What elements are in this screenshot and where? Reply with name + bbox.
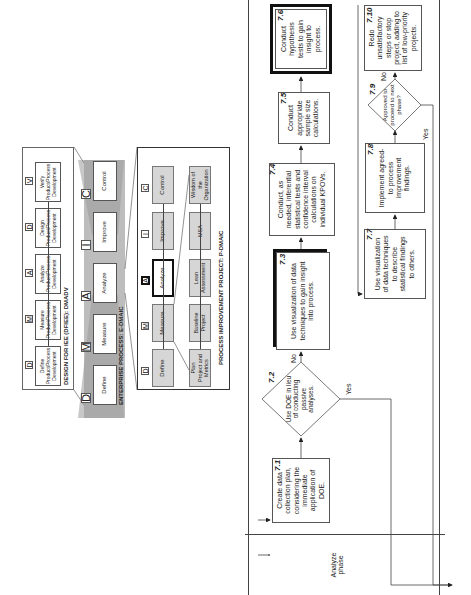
step-7-4-number: 7.4	[268, 164, 277, 175]
step-7-10-text: Redo unsatisfactory steps or stop projec…	[368, 10, 418, 66]
step-7-2-yes-label: Yes	[345, 384, 352, 395]
step-7-8-text: Implement agreed-to process improvement …	[378, 148, 412, 208]
step-7-9-number: 7.9	[368, 84, 377, 95]
step-7-2-number: 7.2	[267, 372, 276, 383]
step-7-8-number: 7.8	[366, 144, 375, 155]
step-7-6-text: Conduct hypothesis tests to gain insight…	[280, 14, 322, 64]
step-7-3-text: Use visualization of data techniques to …	[290, 257, 315, 345]
step-7-2-text: Use DOE in lieu of conducting passive an…	[285, 374, 315, 424]
step-7-1-text: Create data collection plan, considering…	[276, 463, 326, 518]
step-7-9-text: Approved to proceed to next phase?	[382, 83, 403, 127]
step-7-5-number: 7.5	[279, 93, 288, 104]
step-7-3: Use visualization of data techniques to …	[276, 252, 330, 350]
page: D M A D V Define Product/Process Develop…	[0, 0, 471, 595]
step-7-2-no-label: No	[290, 354, 297, 363]
step-7-7-number: 7.7	[365, 229, 374, 240]
step-7-10-number: 7.10	[365, 7, 374, 23]
step-7-9-yes-label: Yes	[422, 129, 429, 140]
step-7-5-text: Conduct appropriate sample size calculat…	[287, 97, 321, 139]
step-7-7-text: Use visualization of data techniques to …	[374, 234, 416, 294]
step-7-4-text: Conduct, as needed, inferential statisti…	[277, 168, 327, 231]
step-7-3-number: 7.3	[278, 254, 287, 265]
rotated-page-content: D M A D V Define Product/Process Develop…	[0, 0, 471, 595]
step-7-1-number: 7.1	[273, 460, 282, 471]
step-7-4: Conduct, as needed, inferential statisti…	[269, 163, 335, 236]
step-7-6-number: 7.6	[276, 10, 285, 21]
step-7-9-no-label: No	[380, 72, 387, 81]
